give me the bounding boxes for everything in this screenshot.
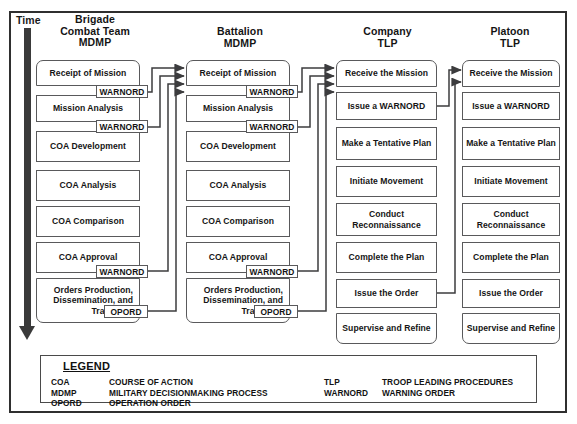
step-box-platoon-7[interactable]: Issue the Order [462, 279, 560, 308]
step-box-battalion-2[interactable]: Mission Analysis [186, 95, 290, 122]
product-tag-battalion-warnord-3[interactable]: WARNORD [246, 265, 298, 278]
step-box-company-2[interactable]: Issue a WARNORD [336, 92, 437, 120]
legend-abbr-warnord: WARNORD [324, 388, 382, 398]
legend-column-left: COA COURSE OF ACTION MDMP MILITARY DECIS… [51, 377, 268, 409]
time-axis-arrow-head [19, 326, 35, 340]
column-header-battalion-line-2: MDMP [185, 38, 295, 50]
column-header-company-line-1: Company [335, 26, 440, 38]
step-box-battalion-4[interactable]: COA Analysis [186, 170, 290, 201]
legend-definition-warnord: WARNING ORDER [382, 388, 455, 398]
legend-abbr-opord: OPORD [51, 398, 109, 408]
step-box-company-7[interactable]: Issue the Order [336, 279, 437, 308]
column-header-battalion: Battalion MDMP [185, 26, 295, 49]
step-box-platoon-8[interactable]: Supervise and Refine [462, 313, 560, 344]
step-box-battalion-5[interactable]: COA Comparison [186, 206, 290, 237]
product-tag-battalion-opord[interactable]: OPORD [254, 305, 298, 318]
column-header-battalion-line-1: Battalion [185, 26, 295, 38]
step-box-brigade-3[interactable]: COA Development [36, 131, 140, 162]
step-box-company-8[interactable]: Supervise and Refine [336, 313, 437, 344]
legend-column-right: TLP TROOP LEADING PROCEDURES WARNORD WAR… [324, 377, 513, 398]
time-axis-arrow-shaft [24, 28, 31, 328]
step-box-brigade-2[interactable]: Mission Analysis [36, 95, 140, 122]
legend-definition-opord: OPERATION ORDER [109, 398, 191, 408]
column-header-brigade-line-1: Brigade [40, 14, 150, 26]
legend-definition-coa: COURSE OF ACTION [109, 377, 193, 387]
step-box-brigade-5[interactable]: COA Comparison [36, 206, 140, 237]
column-header-brigade-line-3: MDMP [40, 37, 150, 49]
product-tag-battalion-warnord-1[interactable]: WARNORD [246, 85, 298, 98]
step-box-company-1[interactable]: Receive the Mission [336, 60, 437, 87]
step-box-company-5[interactable]: Conduct Reconnaissance [336, 203, 437, 236]
product-tag-brigade-opord[interactable]: OPORD [104, 305, 148, 318]
step-box-platoon-4[interactable]: Initiate Movement [462, 166, 560, 197]
step-box-platoon-6[interactable]: Complete the Plan [462, 242, 560, 273]
column-header-company-line-2: TLP [335, 38, 440, 50]
step-box-platoon-5[interactable]: Conduct Reconnaissance [462, 203, 560, 236]
step-box-brigade-1[interactable]: Receipt of Mission [36, 60, 140, 86]
column-header-brigade: Brigade Combat Team MDMP [40, 14, 150, 49]
step-box-platoon-1[interactable]: Receive the Mission [462, 60, 560, 87]
step-box-platoon-3[interactable]: Make a Tentative Plan [462, 127, 560, 160]
legend-row-opord: OPORD OPERATION ORDER [51, 398, 268, 409]
step-box-platoon-2[interactable]: Issue a WARNORD [462, 92, 560, 120]
column-header-platoon: Platoon TLP [460, 26, 560, 49]
step-box-company-4[interactable]: Initiate Movement [336, 166, 437, 197]
legend-row-mdmp: MDMP MILITARY DECISIONMAKING PROCESS [51, 388, 268, 399]
legend-abbr-tlp: TLP [324, 377, 382, 387]
step-box-battalion-1[interactable]: Receipt of Mission [186, 60, 290, 86]
column-header-platoon-line-1: Platoon [460, 26, 560, 38]
column-header-platoon-line-2: TLP [460, 38, 560, 50]
step-box-company-6[interactable]: Complete the Plan [336, 242, 437, 273]
legend-definition-mdmp: MILITARY DECISIONMAKING PROCESS [109, 388, 268, 398]
legend-row-coa: COA COURSE OF ACTION [51, 377, 268, 388]
product-tag-brigade-warnord-3[interactable]: WARNORD [96, 265, 148, 278]
legend-row-warnord: WARNORD WARNING ORDER [324, 388, 513, 399]
product-tag-brigade-warnord-1[interactable]: WARNORD [96, 85, 148, 98]
legend-row-tlp: TLP TROOP LEADING PROCEDURES [324, 377, 513, 388]
legend-title: LEGEND [63, 360, 110, 372]
step-box-battalion-3[interactable]: COA Development [186, 131, 290, 162]
step-box-company-3[interactable]: Make a Tentative Plan [336, 127, 437, 160]
legend-definition-tlp: TROOP LEADING PROCEDURES [382, 377, 513, 387]
product-tag-brigade-warnord-2[interactable]: WARNORD [96, 120, 148, 133]
legend: LEGEND COA COURSE OF ACTION MDMP MILITAR… [40, 355, 537, 403]
column-header-company: Company TLP [335, 26, 440, 49]
product-tag-battalion-warnord-2[interactable]: WARNORD [246, 120, 298, 133]
time-axis-label: Time [16, 14, 41, 26]
legend-abbr-mdmp: MDMP [51, 388, 109, 398]
legend-abbr-coa: COA [51, 377, 109, 387]
diagram-page: Time Brigade Combat Team MDMP Battalion … [0, 0, 577, 424]
step-box-brigade-4[interactable]: COA Analysis [36, 170, 140, 201]
